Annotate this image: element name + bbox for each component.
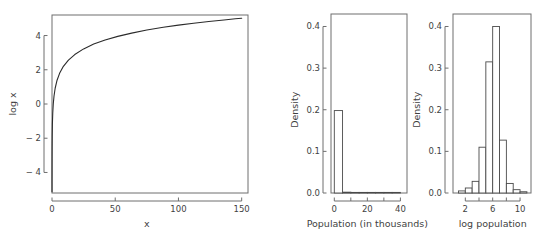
- histogram-bar: [384, 192, 392, 193]
- panel-log-population-hist: 0.00.10.20.30.4Density2610log population: [411, 14, 531, 229]
- y-tick-label: − 2: [26, 133, 41, 143]
- histogram-bar: [465, 188, 472, 193]
- y-tick-label: 0.0: [306, 188, 320, 198]
- histogram-bar: [493, 26, 500, 193]
- y-axis-title: Density: [411, 91, 422, 127]
- x-axis-title: Population (in thousands): [307, 218, 428, 229]
- histogram-bar: [351, 192, 359, 193]
- panel-population-hist: 0.00.10.20.30.4Density02040Population (i…: [289, 14, 428, 229]
- x-tick-label: 10: [515, 204, 526, 214]
- histogram-bar: [343, 192, 351, 193]
- histogram-bar: [376, 192, 384, 193]
- multi-panel-figure: − 4− 2024log x050100150x0.00.10.20.30.4D…: [0, 0, 542, 250]
- y-tick-label: 0.3: [306, 63, 320, 73]
- y-tick-label: 0.2: [306, 105, 320, 115]
- panel-log-curve: − 4− 2024log x050100150x: [7, 15, 250, 229]
- y-tick-label: 0.1: [428, 146, 442, 156]
- y-tick-label: 4: [36, 31, 41, 41]
- histogram-bar: [458, 191, 465, 193]
- histogram-bar: [506, 183, 513, 193]
- y-tick-label: − 4: [26, 167, 41, 177]
- y-tick-label: 0.1: [306, 146, 320, 156]
- x-tick-label: 6: [490, 204, 495, 214]
- y-axis-title: log x: [7, 92, 18, 116]
- x-tick-label: 150: [234, 204, 250, 214]
- x-tick-label: 20: [362, 204, 373, 214]
- histogram-bar: [486, 62, 493, 193]
- y-tick-label: 0.3: [428, 63, 442, 73]
- x-tick-label: 0: [332, 204, 337, 214]
- histogram-bar: [334, 111, 342, 193]
- y-axis-title: Density: [289, 91, 300, 127]
- histogram-bar: [479, 147, 486, 193]
- y-tick-label: 2: [36, 65, 41, 75]
- histogram-bar: [392, 192, 400, 193]
- figure-panel-group: − 4− 2024log x050100150x0.00.10.20.30.4D…: [0, 0, 542, 250]
- x-tick-label: 2: [463, 204, 468, 214]
- histogram-bar: [472, 181, 479, 193]
- data-curve: [52, 18, 242, 191]
- y-tick-label: 0.2: [428, 105, 442, 115]
- y-tick-label: 0.4: [306, 21, 320, 31]
- plot-frame: [52, 15, 248, 193]
- x-axis-title: x: [144, 218, 150, 229]
- histogram-bar: [500, 140, 507, 193]
- y-tick-label: 0.4: [428, 21, 442, 31]
- histogram-bar: [520, 192, 527, 193]
- histogram-bar: [513, 190, 520, 193]
- x-tick-label: 0: [49, 204, 54, 214]
- y-tick-label: 0: [36, 99, 41, 109]
- y-tick-label: 0.0: [428, 188, 442, 198]
- x-tick-label: 100: [170, 204, 186, 214]
- histogram-bar: [359, 192, 367, 193]
- x-tick-label: 50: [110, 204, 121, 214]
- x-axis-title: log population: [459, 218, 527, 229]
- histogram-bar: [367, 192, 375, 193]
- x-tick-label: 40: [395, 204, 406, 214]
